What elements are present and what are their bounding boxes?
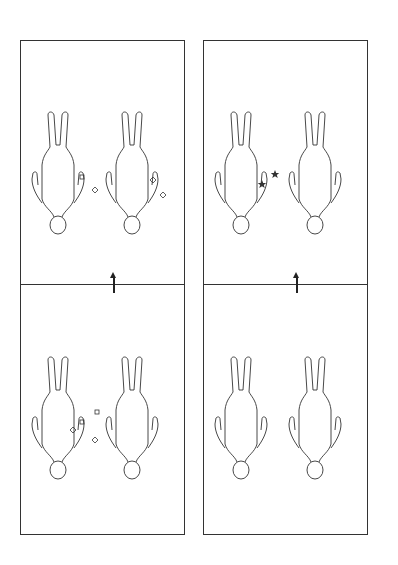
figures (0, 0, 398, 565)
legend (190, 20, 210, 30)
